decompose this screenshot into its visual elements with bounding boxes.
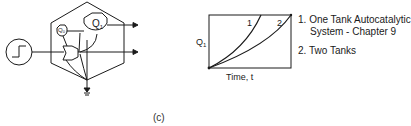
series-label-2: 2 — [277, 18, 282, 28]
series-label-1: 1 — [247, 18, 252, 28]
curve-2-end-point — [290, 14, 292, 16]
legend-item-1-line2: System - Chapter 9 — [298, 26, 411, 38]
output-arrowhead-1 — [133, 23, 138, 28]
tank-q1-label: Q1 — [92, 18, 104, 30]
series-line-1 — [209, 15, 261, 68]
x-axis-label: Time, t — [226, 72, 254, 82]
chart: 1 2 Q1 Time, t — [196, 14, 292, 82]
gate-to-q1-line — [79, 33, 80, 52]
workgate-icon — [63, 46, 78, 60]
system-diagram — [6, 2, 138, 95]
origin-point — [208, 67, 211, 70]
chart-legend: 1. One Tank Autocatalytic System - Chapt… — [298, 14, 411, 57]
q1-feedback-line — [80, 34, 97, 52]
tank-q0-label: Q0 — [58, 27, 66, 34]
legend-item-1: 1. One Tank Autocatalytic System - Chapt… — [298, 14, 411, 38]
legend-item-2-number: 2. — [298, 45, 306, 56]
step-function-glyph — [12, 46, 26, 57]
legend-item-1-number: 1. — [298, 14, 306, 25]
output-arrowhead-2 — [133, 50, 138, 55]
legend-item-2-line1: Two Tanks — [309, 45, 356, 56]
y-axis-label: Q1 — [196, 37, 207, 48]
legend-item-1-line1: One Tank Autocatalytic — [309, 14, 411, 25]
legend-item-2: 2. Two Tanks — [298, 45, 411, 57]
figure-caption: (c) — [153, 112, 165, 123]
heat-sink-ground-icon — [84, 88, 90, 95]
q0-to-gate-line — [63, 36, 67, 46]
